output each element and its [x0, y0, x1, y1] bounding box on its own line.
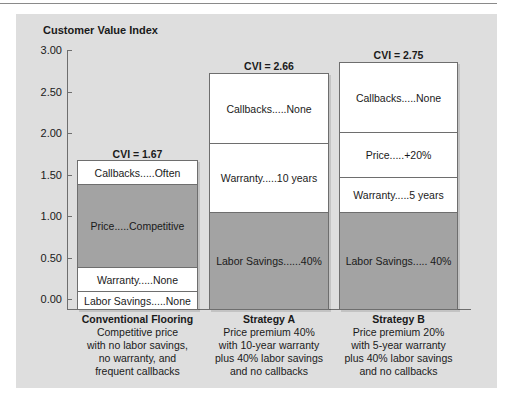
y-tick — [67, 299, 72, 300]
segment-price: Price.....Competitive — [78, 184, 197, 267]
chart-title: Customer Value Index — [43, 24, 158, 36]
segment-labor-savings: Labor Savings.....None — [78, 291, 197, 309]
segment-labor-savings: Labor Savings..... 40% — [340, 212, 457, 309]
segment-callbacks: Callbacks.....None — [340, 63, 457, 132]
bar-strategy-b: Callbacks.....None Price.....+20% Warran… — [339, 62, 458, 310]
caption-line: and no callbacks — [202, 365, 336, 378]
y-tick-label: 0.50 — [20, 252, 62, 264]
y-tick-label: 2.50 — [20, 86, 62, 98]
caption-line: frequent callbacks — [70, 365, 205, 378]
segment-callbacks: Callbacks.....Often — [78, 161, 197, 184]
caption-title: Strategy B — [331, 313, 466, 326]
caption-line: Price premium 20% — [331, 326, 466, 339]
y-tick-label: 1.50 — [20, 169, 62, 181]
segment-warranty: Warranty.....None — [78, 267, 197, 291]
segment-callbacks: Callbacks.....None — [210, 74, 328, 143]
caption-line: plus 40% labor savings — [202, 352, 336, 365]
caption-conventional-flooring: Conventional Flooring Competitive price … — [70, 313, 205, 378]
segment-labor-savings: Labor Savings......40% — [210, 212, 328, 309]
caption-title: Conventional Flooring — [70, 313, 205, 326]
cvi-label-conventional: CVI = 1.67 — [77, 148, 198, 160]
caption-line: with 10-year warranty — [202, 339, 336, 352]
caption-line: and no callbacks — [331, 365, 466, 378]
caption-line: plus 40% labor savings — [331, 352, 466, 365]
caption-line: Price premium 40% — [202, 326, 336, 339]
y-tick — [67, 133, 72, 134]
caption-line: with 5-year warranty — [331, 339, 466, 352]
caption-line: Competitive price — [70, 326, 205, 339]
y-tick — [67, 92, 72, 93]
caption-line: no warranty, and — [70, 352, 205, 365]
y-tick-label: 1.00 — [20, 210, 62, 222]
y-axis-line — [67, 50, 68, 309]
y-tick-label: 2.00 — [20, 127, 62, 139]
caption-strategy-b: Strategy B Price premium 20% with 5-year… — [331, 313, 466, 378]
bar-strategy-a: Callbacks.....None Warranty.....10 years… — [209, 73, 329, 310]
caption-line: with no labor savings, — [70, 339, 205, 352]
y-tick — [67, 50, 72, 51]
y-tick — [67, 175, 72, 176]
cvi-label-strategy-a: CVI = 2.66 — [209, 60, 329, 72]
bar-conventional-flooring: Callbacks.....Often Price.....Competitiv… — [77, 160, 198, 310]
cvi-label-strategy-b: CVI = 2.75 — [339, 49, 458, 61]
y-tick — [67, 258, 72, 259]
top-rule — [0, 3, 497, 4]
caption-title: Strategy A — [202, 313, 336, 326]
caption-strategy-a: Strategy A Price premium 40% with 10-yea… — [202, 313, 336, 378]
y-tick-label: 0.00 — [20, 293, 62, 305]
y-tick-label: 3.00 — [20, 44, 62, 56]
y-tick — [67, 216, 72, 217]
segment-warranty: Warranty.....10 years — [210, 143, 328, 212]
segment-warranty: Warranty.....5 years — [340, 177, 457, 212]
segment-price: Price.....+20% — [340, 132, 457, 177]
